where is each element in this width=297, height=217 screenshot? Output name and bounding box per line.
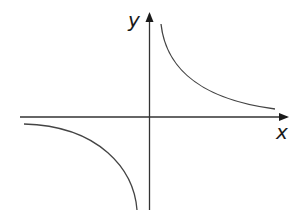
- hyperbola-graph: y x: [0, 0, 297, 217]
- hyperbola-branch-quadrant-3: [24, 124, 137, 210]
- hyperbola-branch-quadrant-1: [161, 24, 275, 109]
- x-axis-label: x: [276, 122, 288, 142]
- graph-canvas: [0, 0, 297, 217]
- y-axis-label: y: [128, 10, 140, 30]
